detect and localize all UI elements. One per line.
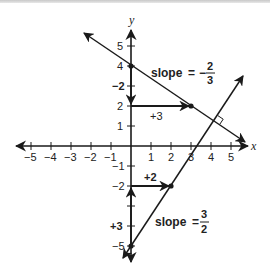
x-tick-label: −3 bbox=[64, 151, 77, 163]
line-slope-three-halves: +3 +2 slope = 3 2 bbox=[110, 76, 243, 258]
run-label: +2 bbox=[144, 171, 157, 183]
x-tick-label: 4 bbox=[208, 151, 214, 163]
run-label: +3 bbox=[150, 110, 163, 122]
slope-label-line1: slope = − 2 3 bbox=[151, 60, 215, 86]
x-axis: −5 −4 −3 −2 −1 1 2 3 4 5 x bbox=[16, 139, 257, 163]
y-tick-label: −2 bbox=[112, 180, 125, 192]
y-axis-label: y bbox=[128, 13, 135, 27]
point-y-intercept-4 bbox=[128, 63, 133, 68]
rise-label: −2 bbox=[112, 80, 125, 92]
x-tick-label: 5 bbox=[228, 151, 234, 163]
x-axis-label: x bbox=[250, 139, 257, 153]
x-tick-label: 1 bbox=[148, 151, 154, 163]
x-tick-label: −4 bbox=[44, 151, 57, 163]
point-3-2 bbox=[188, 103, 193, 108]
y-tick-label: −5 bbox=[112, 240, 125, 252]
y-tick-label: 2 bbox=[117, 100, 123, 112]
svg-text:slope: slope bbox=[155, 215, 187, 229]
svg-text:slope: slope bbox=[151, 66, 183, 80]
svg-text:3: 3 bbox=[207, 74, 213, 86]
svg-text:=: = bbox=[188, 66, 195, 80]
svg-text:−: − bbox=[199, 66, 206, 80]
y-tick-label: −1 bbox=[112, 160, 125, 172]
svg-text:3: 3 bbox=[201, 208, 207, 220]
y-tick-label: 5 bbox=[117, 40, 123, 52]
x-tick-label: 2 bbox=[168, 151, 174, 163]
x-tick-label: −5 bbox=[24, 151, 37, 163]
point-2-neg2 bbox=[168, 183, 173, 188]
slope-label-line2: slope = 3 2 bbox=[155, 208, 209, 235]
point-y-intercept-neg5 bbox=[128, 243, 133, 248]
y-tick-label: 4 bbox=[117, 60, 123, 72]
y-tick-label: 1 bbox=[117, 120, 123, 132]
x-tick-label: −2 bbox=[84, 151, 97, 163]
svg-text:2: 2 bbox=[207, 60, 213, 72]
coordinate-plane: −5 −4 −3 −2 −1 1 2 3 4 5 x y 5 4 2 1 −1 … bbox=[0, 0, 270, 267]
svg-text:=: = bbox=[192, 215, 199, 229]
svg-text:2: 2 bbox=[201, 223, 207, 235]
line-slope-neg-two-thirds: −2 +3 slope = − 2 3 bbox=[84, 33, 245, 142]
rise-label: +3 bbox=[110, 220, 123, 232]
